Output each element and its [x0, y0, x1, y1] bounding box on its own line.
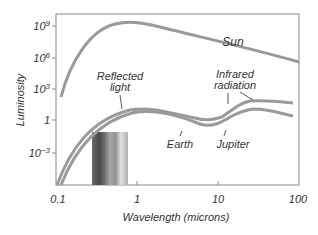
earth-label: Earth — [167, 138, 193, 150]
y-tick-1e9: 109 — [33, 19, 50, 32]
jupiter-leader — [224, 130, 226, 136]
y-tick-1e6: 106 — [33, 51, 50, 64]
x-tick-10: 10 — [212, 193, 225, 205]
sun-label: Sun — [222, 35, 244, 49]
x-axis-label: Wavelength (microns) — [123, 211, 230, 223]
reflected-light-leader — [120, 95, 122, 109]
x-tick-1: 1 — [134, 193, 140, 205]
infrared-leader-2 — [240, 92, 253, 100]
infrared-label-line2: radiation — [214, 79, 256, 91]
y-axis-label: Luminosity — [14, 72, 26, 126]
sun-curve — [61, 22, 299, 97]
x-ticks — [137, 181, 218, 185]
earth-leader — [180, 131, 182, 136]
x-tick-100: 100 — [289, 193, 308, 205]
visible-spectrum-bar — [92, 132, 128, 185]
y-tick-1e3: 103 — [33, 82, 50, 95]
chart: 109 106 103 1 10−3 0.1 1 10 100 Waveleng… — [0, 0, 318, 235]
y-tick-1: 1 — [44, 114, 50, 126]
reflected-light-label-line2: light — [110, 81, 131, 93]
y-tick-1e-3: 10−3 — [29, 146, 51, 159]
x-tick-0.1: 0.1 — [50, 193, 65, 205]
y-ticks — [52, 26, 56, 153]
jupiter-label: Jupiter — [215, 138, 250, 150]
